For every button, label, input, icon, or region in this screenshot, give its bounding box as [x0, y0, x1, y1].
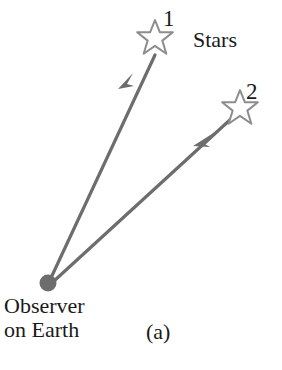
figure-panel-a: 1 2 Stars Observer on Earth (a)	[0, 0, 282, 370]
star-2-number-label: 2	[246, 79, 258, 104]
observer-dot-icon	[40, 275, 57, 292]
star-1-number-label: 1	[163, 6, 175, 31]
observer-label-line-1: Observer	[4, 293, 85, 318]
observer-label-line-2: on Earth	[4, 317, 79, 342]
stars-label: Stars	[193, 27, 237, 52]
panel-label: (a)	[146, 319, 170, 344]
starlight-ray-diagram: 1 2 Stars Observer on Earth (a)	[0, 0, 282, 370]
